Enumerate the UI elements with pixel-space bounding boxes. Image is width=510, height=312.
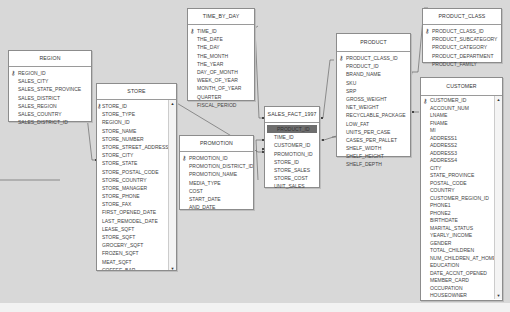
column-row[interactable]: PROMOTION_ID bbox=[265, 150, 319, 158]
table-promotion[interactable]: PROMOTION ⚷PROMOTION_ID PROMOTION_DISTRI… bbox=[179, 135, 254, 210]
column-row[interactable]: PROMOTION_NAME bbox=[180, 170, 253, 178]
column-row[interactable]: THE_DATE bbox=[188, 35, 254, 43]
scroll-up-button[interactable]: ▲ bbox=[495, 96, 502, 103]
column-row[interactable]: STORE_SQFT bbox=[97, 233, 176, 241]
table-sales-fact-1997[interactable]: SALES_FACT_1997 PRODUCT_ID TIME_ID CUSTO… bbox=[264, 106, 320, 188]
column-row-key[interactable]: ⚷PRODUCT_CLASS_ID bbox=[423, 27, 501, 35]
column-row-selected[interactable]: PRODUCT_ID bbox=[267, 125, 317, 133]
column-row[interactable]: COUNTRY bbox=[421, 187, 502, 195]
column-row[interactable]: WEEK_OF_YEAR bbox=[188, 76, 254, 84]
scroll-down-button[interactable]: ▼ bbox=[495, 292, 502, 299]
column-row[interactable]: GENDER bbox=[421, 240, 502, 248]
column-row[interactable]: FISCAL_PERIOD bbox=[188, 101, 254, 109]
table-region[interactable]: REGION ⚷REGION_ID SALES_CITY SALES_STATE… bbox=[8, 50, 92, 122]
column-row[interactable]: STORE_NAME bbox=[97, 127, 176, 135]
column-row[interactable]: AND_DATE bbox=[180, 203, 253, 211]
column-row[interactable]: LEASE_SQFT bbox=[97, 225, 176, 233]
column-row[interactable]: FNAME bbox=[421, 120, 502, 128]
column-row[interactable]: MEMBER_CARD bbox=[421, 277, 502, 285]
column-row[interactable]: ACCOUNT_NUM bbox=[421, 105, 502, 113]
table-product-class[interactable]: PRODUCT_CLASS ⚷PRODUCT_CLASS_ID PRODUCT_… bbox=[422, 8, 502, 63]
column-row[interactable]: STORE_MANAGER bbox=[97, 184, 176, 192]
column-row[interactable]: PRODUCT_FAMILY bbox=[423, 60, 501, 68]
column-row[interactable]: TOTAL_CHILDREN bbox=[421, 247, 502, 255]
column-row[interactable]: ADDRESS1 bbox=[421, 135, 502, 143]
column-row[interactable]: STORE_STREET_ADDRESS bbox=[97, 143, 176, 151]
column-row[interactable]: LOW_FAT bbox=[337, 120, 410, 128]
column-row[interactable]: SALES_REGION bbox=[9, 102, 91, 110]
column-row[interactable]: GROCERY_SQFT bbox=[97, 241, 176, 249]
column-row[interactable]: STATE_PROVINCE bbox=[421, 172, 502, 180]
column-row[interactable]: SKU bbox=[337, 79, 410, 87]
column-row[interactable]: UNITS_PER_CASE bbox=[337, 128, 410, 136]
column-row[interactable]: MARITAL_STATUS bbox=[421, 225, 502, 233]
column-row[interactable]: POSTAL_CODE bbox=[421, 180, 502, 188]
column-row[interactable]: STORE_FAX bbox=[97, 200, 176, 208]
column-row[interactable]: SHELF_DEPTH bbox=[337, 160, 410, 168]
column-row[interactable]: START_DATE bbox=[180, 195, 253, 203]
column-row[interactable]: LAST_REMODEL_DATE bbox=[97, 217, 176, 225]
column-row[interactable]: THE_YEAR bbox=[188, 60, 254, 68]
column-row[interactable]: STORE_CITY bbox=[97, 151, 176, 159]
table-time-by-day[interactable]: TIME_BY_DAY ⚷TIME_ID THE_DATE THE_DAY TH… bbox=[187, 8, 255, 101]
column-row[interactable]: YEARLY_INCOME bbox=[421, 232, 502, 240]
column-row[interactable]: PRODUCT_CATEGORY bbox=[423, 43, 501, 51]
column-row[interactable]: STORE_TYPE bbox=[97, 110, 176, 118]
column-row[interactable]: LNAME bbox=[421, 112, 502, 120]
column-row[interactable]: SHELF_HEIGHT bbox=[337, 152, 410, 160]
column-row[interactable]: STORE_STATE bbox=[97, 159, 176, 167]
column-row[interactable]: DATE_ACCNT_OPENED bbox=[421, 270, 502, 278]
column-row[interactable]: QUARTER bbox=[188, 93, 254, 101]
column-row-key[interactable]: ⚷CUSTOMER_ID bbox=[421, 97, 502, 105]
column-row[interactable]: EDUCATION bbox=[421, 262, 502, 270]
column-row[interactable]: HOUSEOWNER bbox=[421, 292, 502, 299]
column-row[interactable]: MONTH_OF_YEAR bbox=[188, 84, 254, 92]
column-row[interactable]: PHONE1 bbox=[421, 202, 502, 210]
column-row[interactable]: THE_MONTH bbox=[188, 52, 254, 60]
column-row-key[interactable]: ⚷TIME_ID bbox=[188, 27, 254, 35]
scrollbar[interactable]: ▲▼ bbox=[168, 100, 176, 271]
column-row[interactable]: OCCUPATION bbox=[421, 285, 502, 293]
table-store[interactable]: STORE ▲▼ ⚷STORE_ID STORE_TYPE REGION_ID … bbox=[96, 83, 177, 271]
column-row[interactable]: PROMOTION_DISTRICT_ID bbox=[180, 162, 253, 170]
column-row[interactable]: SRP bbox=[337, 87, 410, 95]
column-row[interactable]: THE_DAY bbox=[188, 43, 254, 51]
column-row[interactable]: CUSTOMER_REGION_ID bbox=[421, 195, 502, 203]
column-row-key[interactable]: ⚷REGION_ID bbox=[9, 69, 91, 77]
column-row[interactable]: PRODUCT_DEPARTMENT bbox=[423, 52, 501, 60]
column-row[interactable]: MEDIA_TYPE bbox=[180, 179, 253, 187]
column-row[interactable]: COST bbox=[180, 187, 253, 195]
column-row[interactable]: STORE_COUNTRY bbox=[97, 176, 176, 184]
column-row[interactable]: DAY_OF_MONTH bbox=[188, 68, 254, 76]
column-row[interactable]: PHONE2 bbox=[421, 210, 502, 218]
column-row[interactable]: CITY bbox=[421, 165, 502, 173]
column-row[interactable]: GROSS_WEIGHT bbox=[337, 95, 410, 103]
column-row[interactable]: CASES_PER_PALLET bbox=[337, 136, 410, 144]
table-product[interactable]: PRODUCT ⚷PRODUCT_CLASS_ID PRODUCT_ID BRA… bbox=[336, 33, 411, 157]
column-row-key[interactable]: ⚷PRODUCT_CLASS_ID bbox=[337, 54, 410, 62]
column-row[interactable]: NUM_CHILDREN_AT_HOME bbox=[421, 255, 502, 263]
column-row[interactable]: SALES_DISTRICT_ID bbox=[9, 118, 91, 126]
column-row[interactable]: NET_WEIGHT bbox=[337, 103, 410, 111]
column-row[interactable]: FROZEN_SQFT bbox=[97, 249, 176, 257]
scroll-up-button[interactable]: ▲ bbox=[169, 100, 176, 107]
column-row[interactable]: MI bbox=[421, 127, 502, 135]
column-row[interactable]: COFFEE_BAR bbox=[97, 266, 176, 271]
column-row[interactable]: ADDRESS3 bbox=[421, 150, 502, 158]
column-row[interactable]: PRODUCT_SUBCATEGORY bbox=[423, 35, 501, 43]
column-row[interactable]: PRODUCT_ID bbox=[337, 62, 410, 70]
column-row[interactable]: SALES_CITY bbox=[9, 77, 91, 85]
column-row[interactable]: TIME_ID bbox=[265, 133, 319, 141]
column-row-key[interactable]: ⚷STORE_ID bbox=[97, 102, 176, 110]
column-row[interactable]: FIRST_OPENED_DATE bbox=[97, 208, 176, 216]
column-row[interactable]: STORE_ID bbox=[265, 158, 319, 166]
column-row[interactable]: REGION_ID bbox=[97, 118, 176, 126]
column-row[interactable]: BRAND_NAME bbox=[337, 70, 410, 78]
column-row[interactable]: UNIT_SALES bbox=[265, 182, 319, 190]
column-row[interactable]: ADDRESS2 bbox=[421, 142, 502, 150]
column-row[interactable]: CUSTOMER_ID bbox=[265, 141, 319, 149]
column-row[interactable]: RECYCLABLE_PACKAGE bbox=[337, 111, 410, 119]
column-row[interactable]: SALES_COUNTRY bbox=[9, 110, 91, 118]
column-row-key[interactable]: ⚷PROMOTION_ID bbox=[180, 154, 253, 162]
column-row[interactable]: ADDRESS4 bbox=[421, 157, 502, 165]
